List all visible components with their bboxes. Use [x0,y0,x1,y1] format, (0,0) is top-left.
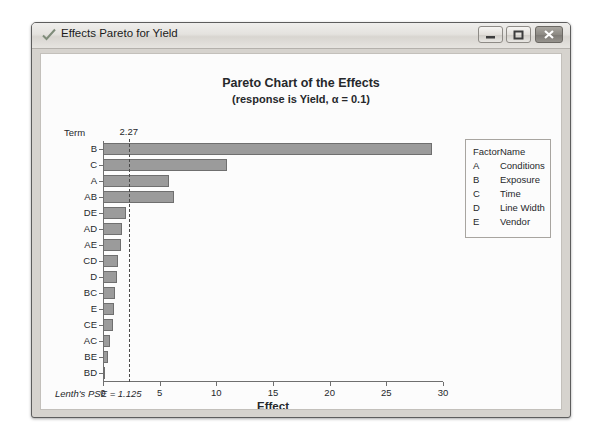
bar-de[interactable] [103,207,126,219]
y-tick-label-e: E [41,303,97,314]
x-tick [443,382,444,386]
x-tick [386,382,387,386]
bar-ab[interactable] [103,191,174,203]
bar-ac[interactable] [103,335,110,347]
legend-row: DLine Width [473,202,545,216]
y-tick [99,341,103,342]
legend-name: Line Width [500,202,545,216]
y-tick-label-bc: BC [41,287,97,298]
close-button[interactable] [535,26,563,43]
y-tick-label-ce: CE [41,319,97,330]
x-tick-label: 20 [324,387,335,398]
y-tick [99,229,103,230]
legend-name: Time [500,188,545,202]
y-tick-label-d: D [41,271,97,282]
x-tick-label: 30 [438,387,449,398]
y-tick [99,325,103,326]
x-tick [330,382,331,386]
window-titlebar[interactable]: Effects Pareto for Yield [32,23,570,49]
legend-factor: A [473,160,500,174]
y-tick [99,309,103,310]
legend-header-name: Name [500,146,545,160]
x-tick [103,382,104,386]
bar-ce[interactable] [103,319,113,331]
bar-bc[interactable] [103,287,115,299]
y-tick [99,245,103,246]
legend-factor: C [473,188,500,202]
bar-e[interactable] [103,303,114,315]
bar-bd[interactable] [103,367,105,379]
y-tick-label-ac: AC [41,335,97,346]
chart-subtitle: (response is Yield, α = 0.1) [41,93,561,105]
y-tick [99,181,103,182]
x-tick [216,382,217,386]
legend-factor: E [473,216,500,230]
y-tick [99,277,103,278]
bar-ad[interactable] [103,223,122,235]
legend-header-factor: Factor [473,146,500,160]
y-tick-label-ae: AE [41,239,97,250]
factor-legend: Factor Name AConditionsBExposureCTimeDLi… [465,139,551,238]
bar-d[interactable] [103,271,117,283]
y-tick-label-cd: CD [41,255,97,266]
chart-title: Pareto Chart of the Effects [41,76,561,90]
y-tick [99,261,103,262]
y-tick [99,357,103,358]
y-tick [99,197,103,198]
y-tick [99,293,103,294]
bars-container [103,141,443,381]
legend-name: Exposure [500,174,545,188]
y-tick-label-c: C [41,159,97,170]
y-tick [99,165,103,166]
reference-line [129,139,130,382]
x-tick [273,382,274,386]
x-tick-label: 10 [211,387,222,398]
legend-row: CTime [473,188,545,202]
y-tick-label-ad: AD [41,223,97,234]
window-title: Effects Pareto for Yield [61,27,178,39]
y-tick-label-de: DE [41,207,97,218]
y-tick-label-bd: BD [41,367,97,378]
y-tick [99,213,103,214]
x-axis-title: Effect [103,400,443,410]
x-tick-label: 15 [268,387,279,398]
y-tick-label-be: BE [41,351,97,362]
legend-row: EVendor [473,216,545,230]
lenth-pse-annotation: Lenth's PSE = 1.125 [55,388,142,399]
chart-canvas: Pareto Chart of the Effects (response is… [40,53,562,410]
bar-ae[interactable] [103,239,121,251]
x-tick [160,382,161,386]
legend-name: Conditions [500,160,545,174]
y-axis-title: Term [64,127,85,138]
y-tick-label-a: A [41,175,97,186]
bar-c[interactable] [103,159,227,171]
reference-line-label: 2.27 [119,126,138,137]
y-tick [99,373,103,374]
bar-be[interactable] [103,351,108,363]
bar-cd[interactable] [103,255,118,267]
checkmark-icon [41,27,57,43]
bar-a[interactable] [103,175,169,187]
y-tick [99,149,103,150]
chart-window: Effects Pareto for Yield Pareto Chart of… [31,22,571,418]
legend-body: AConditionsBExposureCTimeDLine WidthEVen… [473,160,545,230]
legend-factor: D [473,202,500,216]
y-tick-label-ab: AB [41,191,97,202]
legend-row: BExposure [473,174,545,188]
legend-name: Vendor [500,216,545,230]
legend-factor: B [473,174,500,188]
x-tick-label: 25 [381,387,392,398]
y-tick-label-b: B [41,143,97,154]
maximize-button[interactable] [506,26,531,43]
legend-row: AConditions [473,160,545,174]
minimize-button[interactable] [478,26,503,43]
x-tick-label: 5 [157,387,162,398]
legend-table: Factor Name AConditionsBExposureCTimeDLi… [473,146,545,230]
legend-header-row: Factor Name [473,146,545,160]
bar-b[interactable] [103,143,432,155]
